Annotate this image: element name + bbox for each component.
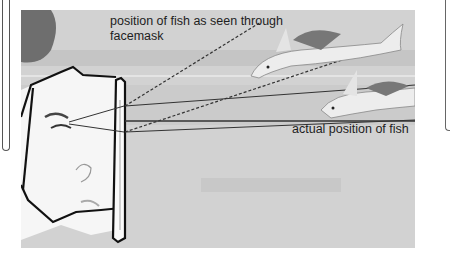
- apparent-position-label: position of fish as seen through facemas…: [110, 14, 310, 44]
- right-page-border: [445, 0, 450, 131]
- actual-position-label: actual position of fish: [292, 122, 409, 137]
- left-page-border: [2, 0, 10, 151]
- diagram-scene: position of fish as seen through facemas…: [21, 10, 415, 248]
